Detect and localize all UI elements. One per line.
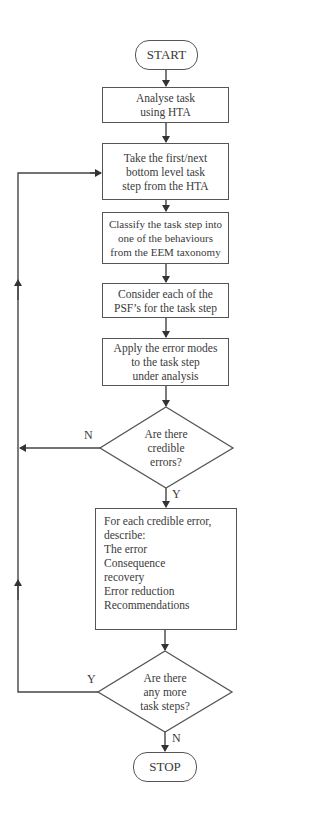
stop-terminal: STOP <box>133 752 197 782</box>
step-text-line: step from the HTA <box>122 179 208 193</box>
step-text-line: from the EEM taxonomy <box>110 245 220 259</box>
stop-label: STOP <box>149 760 181 774</box>
decision2-no-label: N <box>172 731 181 746</box>
start-terminal: START <box>135 40 198 70</box>
decision-text-line: Are there <box>143 671 186 685</box>
step-take-task-step: Take the first/next bottom level task st… <box>102 143 229 200</box>
step-text-line: one of the behaviours <box>118 231 213 245</box>
describe-text-line: For each credible error, <box>104 514 211 528</box>
decision-credible-errors: Are there credible errors? <box>126 426 206 470</box>
decision-text-line: task steps? <box>140 699 190 713</box>
step-text-line: Consider each of the <box>118 287 213 301</box>
describe-text-line: Consequence <box>104 556 165 570</box>
describe-text-line: recovery <box>104 570 144 584</box>
describe-text-line: describe: <box>104 528 146 542</box>
step-consider-psfs: Consider each of the PSF’s for the task … <box>102 283 229 318</box>
step-text-line: under analysis <box>132 369 198 383</box>
step-text-line: using HTA <box>140 105 191 119</box>
describe-text-line: Recommendations <box>104 598 190 612</box>
step-analyse-task: Analyse task using HTA <box>102 87 229 123</box>
step-apply-error-modes: Apply the error modes to the task step u… <box>102 338 229 386</box>
step-text-line: PSF’s for the task step <box>114 301 217 315</box>
decision1-yes-label: Y <box>172 487 181 502</box>
step-text-line: to the task step <box>131 355 200 369</box>
step-text-line: Apply the error modes <box>114 341 218 355</box>
decision1-no-label: N <box>84 428 93 443</box>
step-text-line: Classify the task step into <box>109 217 222 231</box>
decision-text-line: Are there <box>144 427 187 441</box>
step-text-line: Analyse task <box>136 91 195 105</box>
step-classify-task-step: Classify the task step into one of the b… <box>102 212 229 264</box>
decision-text-line: any more <box>143 685 186 699</box>
decision-more-task-steps: Are there any more task steps? <box>124 670 206 714</box>
decision-text-line: credible <box>147 441 184 455</box>
describe-text-line: Error reduction <box>104 584 175 598</box>
start-label: START <box>147 48 186 62</box>
step-text-line: Take the first/next <box>124 151 208 165</box>
decision-text-line: errors? <box>150 455 182 469</box>
decision2-yes-label: Y <box>87 672 96 687</box>
describe-text-line: The error <box>104 542 147 556</box>
step-text-line: bottom level task <box>126 165 205 179</box>
step-describe-credible-errors: For each credible error, describe: The e… <box>95 508 237 630</box>
